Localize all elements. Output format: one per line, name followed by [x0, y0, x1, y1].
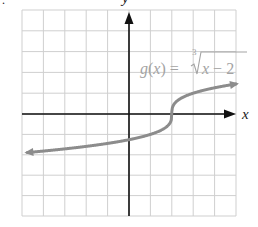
graph-figure: . x y g(x) = 3 x − 2 [0, 0, 258, 227]
x-axis-arrow-icon [224, 110, 236, 119]
figure-marker: . [2, 0, 5, 7]
y-axis-label: y [120, 0, 129, 6]
x-axis-label: x [241, 106, 249, 122]
radical-index: 3 [192, 47, 197, 57]
curve-right-arrow-icon [229, 81, 239, 89]
radicand: x − 2 [201, 60, 234, 77]
y-axis-arrow-icon [125, 12, 134, 24]
function-curve [27, 84, 236, 153]
function-label-lhs: g(x) = [140, 60, 179, 78]
